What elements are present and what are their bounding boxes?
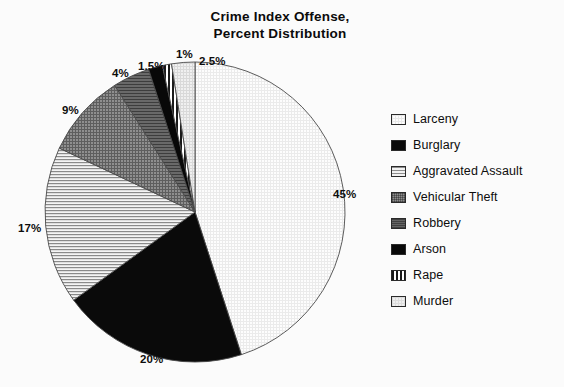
legend-label: Aggravated Assault: [413, 164, 523, 178]
legend-label: Murder: [413, 294, 453, 308]
chart-page: Crime Index Offense, Percent Distributio…: [0, 0, 564, 387]
legend-label: Robbery: [413, 216, 461, 230]
legend-item-burglary[interactable]: Burglary: [391, 132, 561, 158]
legend-item-aggravated-assault[interactable]: Aggravated Assault: [391, 158, 561, 184]
legend-item-vehicular-theft[interactable]: Vehicular Theft: [391, 184, 561, 210]
legend-swatch-arson-icon: [391, 244, 406, 255]
legend-swatch-burglary-icon: [391, 140, 406, 151]
pie-slices: [45, 62, 345, 362]
legend-swatch-aggravated-assault-icon: [391, 166, 406, 177]
legend-swatch-robbery-icon: [391, 218, 406, 229]
legend-label: Burglary: [413, 138, 460, 152]
legend-label: Vehicular Theft: [413, 190, 498, 204]
legend-swatch-rape-icon: [391, 270, 406, 281]
legend-swatch-murder-icon: [391, 296, 406, 307]
slice-percent-label: 1%: [176, 48, 193, 60]
slice-percent-label: 45%: [333, 188, 356, 200]
slice-percent-label: 4%: [112, 67, 129, 79]
legend-swatch-vehicular-theft-icon: [391, 192, 406, 203]
slice-percent-label: 20%: [140, 353, 163, 365]
legend-item-rape[interactable]: Rape: [391, 262, 561, 288]
chart-legend: LarcenyBurglaryAggravated AssaultVehicul…: [391, 106, 561, 314]
pie-chart-area: 45%20%17%9%4%1.5%1%2.5%: [0, 0, 390, 387]
legend-label: Larceny: [413, 112, 458, 126]
slice-percent-label: 2.5%: [199, 55, 226, 67]
slice-percent-label: 1.5%: [138, 60, 165, 72]
slice-percent-label: 17%: [18, 222, 41, 234]
legend-item-larceny[interactable]: Larceny: [391, 106, 561, 132]
legend-item-arson[interactable]: Arson: [391, 236, 561, 262]
legend-swatch-larceny-icon: [391, 114, 406, 125]
legend-item-murder[interactable]: Murder: [391, 288, 561, 314]
pie-chart-svg: [0, 0, 390, 387]
legend-label: Rape: [413, 268, 443, 282]
legend-item-robbery[interactable]: Robbery: [391, 210, 561, 236]
slice-percent-label: 9%: [62, 104, 79, 116]
legend-label: Arson: [413, 242, 446, 256]
